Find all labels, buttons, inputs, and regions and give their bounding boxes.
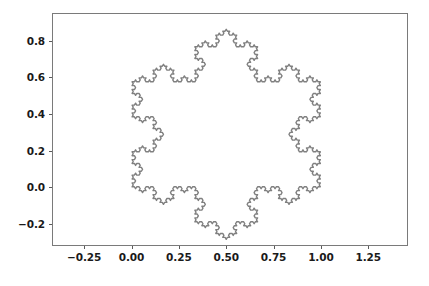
x-tick-mark: [132, 246, 133, 249]
y-tick-label: −0.2: [18, 218, 45, 230]
y-tick-label: 0.8: [27, 35, 45, 47]
y-tick-mark: [49, 41, 52, 42]
y-tick-mark: [49, 151, 52, 152]
x-tick-mark: [226, 246, 227, 249]
plot-axes: [52, 13, 408, 246]
y-tick-mark: [49, 187, 52, 188]
x-tick-label: −0.25: [67, 251, 101, 263]
x-tick-mark: [84, 246, 85, 249]
x-tick-label: 1.00: [308, 251, 334, 263]
x-tick-mark: [321, 246, 322, 249]
y-tick-label: 0.4: [27, 108, 45, 120]
y-tick-mark: [49, 77, 52, 78]
y-tick-label: 0.2: [27, 145, 45, 157]
x-tick-label: 0.50: [213, 251, 239, 263]
y-tick-mark: [49, 224, 52, 225]
y-tick-label: 0.6: [27, 71, 45, 83]
y-tick-mark: [49, 114, 52, 115]
x-tick-label: 0.75: [261, 251, 287, 263]
x-tick-label: 0.25: [166, 251, 192, 263]
x-tick-label: 1.25: [355, 251, 381, 263]
x-tick-mark: [368, 246, 369, 249]
matplotlib-figure: −0.250.000.250.500.751.001.25 −0.20.00.2…: [0, 0, 429, 286]
x-tick-mark: [179, 246, 180, 249]
y-tick-label: 0.0: [27, 181, 45, 193]
x-tick-label: 0.00: [119, 251, 145, 263]
koch-snowflake-curve: [53, 14, 407, 245]
x-tick-mark: [274, 246, 275, 249]
